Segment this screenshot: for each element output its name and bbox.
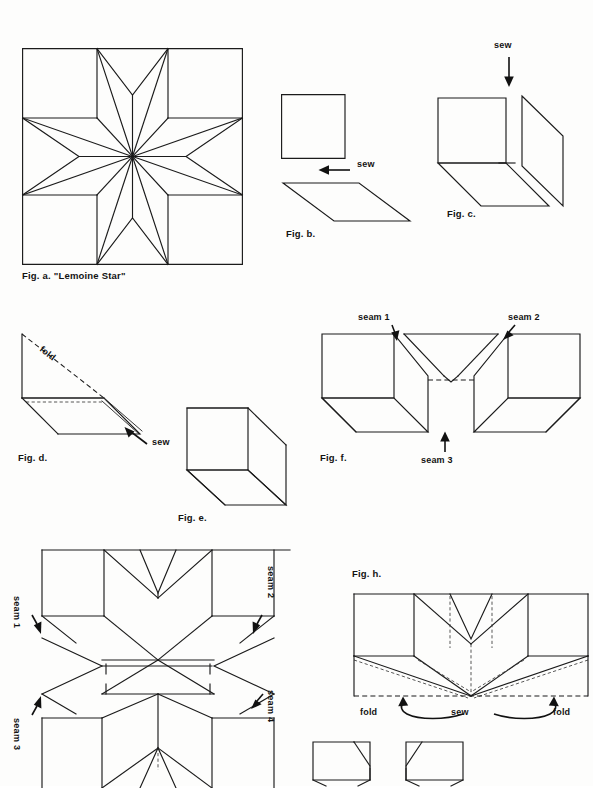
figure-a-caption: Fig. a. "Lemoine Star" (22, 270, 126, 281)
figure-g-seam4-label: seam 4 (266, 690, 276, 722)
figure-h-fold-left-label: fold (360, 707, 377, 717)
figure-g-seam3-arrow (28, 695, 46, 717)
figure-h-half-block (352, 592, 590, 704)
figure-g-seam2-arrow (248, 613, 266, 635)
figure-h-caption: Fig. h. (352, 568, 381, 579)
figure-b-square-and-diamond (281, 94, 413, 226)
figure-e-caption: Fig. e. (178, 512, 207, 523)
figure-g-four-units (40, 548, 254, 788)
figure-d-sew-label: sew (152, 437, 170, 447)
figure-d-fold-unit (18, 330, 158, 440)
figure-b-sew-label: sew (357, 159, 375, 169)
figure-c-caption: Fig. c. (447, 208, 476, 219)
figure-i-partial-units (310, 738, 480, 786)
figure-f-caption: Fig. f. (320, 452, 347, 463)
figure-h-sew-label: sew (451, 707, 469, 717)
figure-c-sew-label: sew (494, 40, 512, 50)
figure-g-seam1-arrow (28, 613, 46, 635)
figure-c-folded-unit (437, 88, 589, 218)
figure-c-sew-arrow (501, 56, 517, 88)
figure-h-fold-right-label: fold (553, 707, 570, 717)
figure-g-seam3-label: seam 3 (12, 718, 22, 750)
figure-d-caption: Fig. d. (18, 452, 47, 463)
figure-d-sew-arrow (124, 426, 150, 448)
figure-a-lemoine-star (22, 48, 244, 268)
figure-b-sew-arrow (318, 162, 352, 178)
figure-f-seam1-label: seam 1 (358, 312, 390, 322)
figure-f-seam1-arrow (386, 324, 402, 342)
figure-f-seam3-arrow (437, 431, 453, 453)
figure-b-caption: Fig. b. (286, 228, 315, 239)
figure-f-seam2-arrow (500, 324, 518, 342)
figure-f-seam3-label: seam 3 (421, 455, 453, 465)
figure-e-completed-unit (186, 400, 312, 512)
figure-g-seam1-label: seam 1 (12, 596, 22, 628)
figure-f-seam2-label: seam 2 (508, 312, 540, 322)
figure-g-seam4-arrow (248, 692, 266, 712)
figure-g-seam2-label: seam 2 (266, 566, 276, 598)
